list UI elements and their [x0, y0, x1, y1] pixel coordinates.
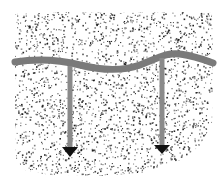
stipple-dots: [12, 9, 217, 180]
arrow-down-icon: [62, 147, 78, 157]
right-downward-arrow: [154, 58, 170, 154]
diagram-canvas: [0, 0, 222, 184]
stipple-diagram: [0, 0, 222, 184]
left-downward-arrow: [62, 66, 78, 157]
